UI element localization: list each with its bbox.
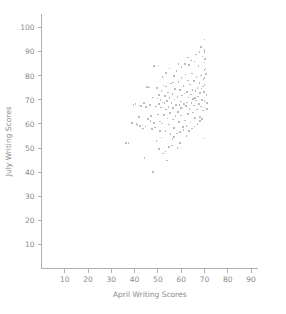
data-point	[204, 69, 206, 71]
data-point	[204, 58, 206, 60]
data-point	[179, 142, 181, 144]
data-point	[183, 85, 185, 87]
data-point	[200, 106, 202, 108]
data-point	[201, 99, 203, 101]
data-point	[205, 68, 207, 70]
x-axis-ticks: 102030405060708090	[60, 269, 256, 284]
data-point	[187, 57, 189, 59]
data-point	[197, 96, 199, 98]
data-point	[180, 107, 182, 109]
data-point	[203, 78, 205, 80]
data-point	[192, 112, 194, 114]
data-point	[202, 110, 204, 112]
data-point	[146, 86, 148, 88]
data-point	[202, 86, 204, 88]
data-point	[204, 77, 206, 79]
data-point	[194, 126, 196, 128]
data-point	[173, 75, 175, 77]
data-point	[161, 90, 163, 92]
data-point	[156, 140, 158, 142]
data-point	[169, 97, 171, 99]
data-point	[200, 46, 202, 48]
data-point	[198, 65, 200, 67]
data-point	[162, 102, 164, 104]
data-point	[195, 90, 197, 92]
y-axis-title: July Writing Scores	[4, 106, 13, 177]
data-point	[179, 131, 181, 133]
data-point	[184, 120, 186, 122]
data-point	[170, 133, 172, 135]
data-point	[204, 51, 206, 53]
data-point	[190, 122, 192, 124]
data-point	[188, 130, 190, 132]
data-point	[191, 128, 193, 130]
data-point	[151, 128, 153, 130]
data-point	[162, 76, 164, 78]
data-point	[166, 100, 168, 102]
data-point	[204, 107, 206, 109]
data-point	[201, 118, 203, 120]
data-point	[165, 151, 167, 153]
y-tick-label: 50	[25, 144, 35, 153]
data-point	[144, 157, 146, 159]
axis-lines	[42, 14, 259, 269]
data-point	[125, 142, 127, 144]
data-point	[167, 118, 169, 120]
data-point	[145, 126, 147, 128]
data-point	[159, 130, 161, 132]
data-point	[163, 114, 165, 116]
data-point	[158, 103, 160, 105]
data-point	[184, 93, 186, 95]
data-point	[148, 87, 150, 89]
data-point	[179, 104, 181, 106]
data-point	[177, 96, 179, 98]
data-point	[200, 75, 202, 77]
data-point	[172, 93, 174, 95]
data-point	[189, 108, 191, 110]
data-point	[196, 76, 198, 78]
data-point-group	[125, 39, 208, 173]
x-tick-label: 40	[130, 275, 140, 284]
data-point	[193, 105, 195, 107]
plot-svg: 102030405060708090100 102030405060708090…	[0, 0, 286, 314]
data-point	[182, 126, 184, 128]
data-point	[168, 124, 170, 126]
data-point	[182, 108, 184, 110]
y-tick-label: 40	[25, 168, 35, 177]
data-point	[158, 148, 160, 150]
x-tick-label: 20	[83, 275, 93, 284]
data-point	[186, 125, 188, 127]
data-point	[143, 102, 145, 104]
data-point	[156, 87, 158, 89]
data-point	[175, 104, 177, 106]
data-point	[160, 99, 162, 101]
y-tick-label: 60	[25, 120, 35, 129]
data-point	[192, 98, 194, 100]
data-point	[174, 88, 176, 90]
data-point	[194, 97, 196, 99]
x-axis-title: April Writing Scores	[113, 290, 187, 299]
data-point	[194, 61, 196, 63]
data-point	[199, 82, 201, 84]
data-point	[204, 39, 206, 41]
data-point	[178, 121, 180, 123]
data-point	[181, 77, 183, 79]
x-tick-label: 60	[176, 275, 186, 284]
data-point	[206, 94, 208, 96]
data-point	[189, 84, 191, 86]
data-point	[138, 116, 140, 118]
data-point	[154, 127, 156, 129]
y-tick-label: 90	[25, 47, 35, 56]
data-point	[195, 54, 197, 56]
data-point	[176, 133, 178, 135]
data-point	[199, 92, 201, 94]
data-point	[204, 92, 206, 94]
data-point	[180, 115, 182, 117]
data-point	[160, 107, 162, 109]
data-point	[163, 85, 165, 87]
data-point	[190, 94, 192, 96]
data-point	[188, 64, 190, 66]
data-point	[192, 89, 194, 91]
data-point	[193, 80, 195, 82]
y-tick-label: 70	[25, 96, 35, 105]
